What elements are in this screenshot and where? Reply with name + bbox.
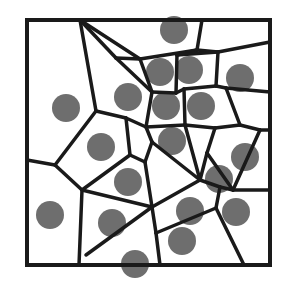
site-point [222,198,250,226]
voronoi-edge [184,89,185,125]
background [0,0,296,285]
site-point [36,201,64,229]
voronoi-edge [216,52,218,86]
voronoi-edge [146,125,185,127]
voronoi-svg [0,0,296,285]
site-point [168,227,196,255]
site-point [187,92,215,120]
site-point [152,92,180,120]
voronoi-edge [116,58,140,59]
voronoi-edge [152,92,176,93]
site-point [87,133,115,161]
site-point [175,56,203,84]
voronoi-edge [176,55,177,93]
site-point [114,83,142,111]
voronoi-diagram [0,0,296,285]
site-point [146,58,174,86]
site-point [98,209,126,237]
site-point [114,168,142,196]
site-point [52,94,80,122]
site-point [176,197,204,225]
